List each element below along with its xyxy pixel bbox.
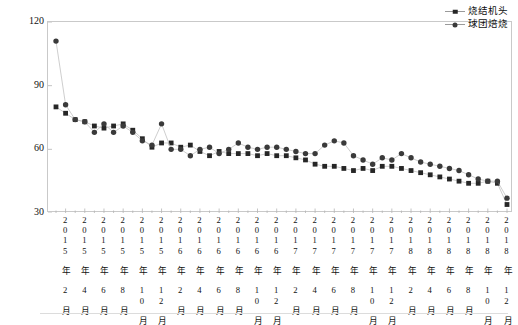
x-tick-label: 2017 年 10 月 bbox=[367, 215, 376, 325]
data-point-circle bbox=[380, 155, 385, 160]
x-tick-label: 2016 年 2 月 bbox=[175, 215, 184, 315]
data-point-square bbox=[437, 175, 442, 180]
data-point-circle bbox=[264, 145, 269, 150]
legend-label: 烧结机头 bbox=[468, 5, 508, 18]
data-point-square bbox=[505, 202, 510, 207]
data-point-square bbox=[293, 155, 298, 160]
data-point-circle bbox=[111, 130, 116, 135]
data-point-circle bbox=[149, 142, 154, 147]
legend-line bbox=[445, 11, 465, 12]
data-point-square bbox=[409, 168, 414, 173]
data-point-square bbox=[92, 124, 97, 129]
plot-area bbox=[47, 21, 512, 212]
x-tick-label: 2018 年 2 月 bbox=[406, 215, 415, 315]
data-point-square bbox=[447, 177, 452, 182]
data-point-square bbox=[389, 164, 394, 169]
data-point-circle bbox=[197, 147, 202, 152]
data-point-circle bbox=[466, 172, 471, 177]
legend-item[interactable]: 球团焙烧 bbox=[445, 18, 508, 31]
data-point-circle bbox=[140, 138, 145, 143]
data-point-circle bbox=[130, 130, 135, 135]
data-point-circle bbox=[255, 147, 260, 152]
data-point-square bbox=[265, 151, 270, 156]
data-point-circle bbox=[216, 151, 221, 156]
x-tick-label: 2017 年 8 月 bbox=[348, 215, 357, 315]
x-tick-label: 2015 年 12 月 bbox=[156, 215, 165, 325]
data-point-circle bbox=[226, 147, 231, 152]
data-point-circle bbox=[303, 151, 308, 156]
data-point-circle bbox=[351, 153, 356, 158]
data-point-square bbox=[399, 166, 404, 171]
data-point-circle bbox=[370, 161, 375, 166]
data-point-square bbox=[332, 164, 337, 169]
data-point-circle bbox=[284, 147, 289, 152]
data-point-circle bbox=[504, 195, 509, 200]
data-point-square bbox=[207, 153, 212, 158]
x-tick-label: 2017 年 4 月 bbox=[310, 215, 319, 315]
data-point-circle bbox=[312, 151, 317, 156]
data-point-square bbox=[351, 168, 356, 173]
data-point-circle bbox=[389, 157, 394, 162]
x-tick-label: 2018 年 12 月 bbox=[502, 215, 511, 325]
x-tick-label: 2018 年 4 月 bbox=[425, 215, 434, 315]
data-point-square bbox=[341, 166, 346, 171]
data-point-square bbox=[236, 151, 241, 156]
legend-circle-icon bbox=[453, 22, 458, 27]
data-point-circle bbox=[495, 178, 500, 183]
x-tick-label: 2016 年 8 月 bbox=[233, 215, 242, 315]
y-axis-title: SO₂排放浓度/（mg/m³） bbox=[0, 0, 8, 34]
data-point-circle bbox=[447, 166, 452, 171]
plot-svg bbox=[48, 22, 513, 213]
data-point-square bbox=[111, 124, 116, 129]
footer-divider bbox=[40, 313, 508, 314]
data-point-circle bbox=[332, 138, 337, 143]
data-point-square bbox=[255, 153, 260, 158]
legend-label: 球团焙烧 bbox=[468, 18, 508, 31]
data-point-circle bbox=[236, 140, 241, 145]
x-tick-label: 2017 年 6 月 bbox=[329, 215, 338, 315]
data-point-circle bbox=[82, 119, 87, 124]
data-point-square bbox=[284, 153, 289, 158]
series-sintering bbox=[54, 104, 510, 206]
data-point-circle bbox=[159, 121, 164, 126]
x-tick-label: 2016 年 4 月 bbox=[194, 215, 203, 315]
data-point-circle bbox=[72, 117, 77, 122]
y-axis-ticks: 120906030 bbox=[10, 0, 44, 232]
y-tick-label: 90 bbox=[14, 80, 44, 90]
data-point-square bbox=[380, 164, 385, 169]
data-point-circle bbox=[207, 145, 212, 150]
x-tick-label: 2015 年 6 月 bbox=[98, 215, 107, 315]
data-point-square bbox=[322, 164, 327, 169]
data-point-circle bbox=[53, 38, 58, 43]
data-point-circle bbox=[168, 147, 173, 152]
data-point-square bbox=[246, 151, 251, 156]
x-tick-label: 2015 年 4 月 bbox=[79, 215, 88, 315]
x-tick-label: 2017 年 2 月 bbox=[290, 215, 299, 315]
data-point-square bbox=[188, 143, 193, 148]
legend-square-icon bbox=[453, 9, 458, 14]
data-point-circle bbox=[341, 140, 346, 145]
x-tick-label: 2018 年 8 月 bbox=[463, 215, 472, 315]
data-point-square bbox=[159, 141, 164, 146]
data-point-circle bbox=[456, 168, 461, 173]
data-point-square bbox=[466, 181, 471, 186]
chart-legend: 烧结机头球团焙烧 bbox=[445, 5, 508, 31]
data-point-circle bbox=[437, 164, 442, 169]
data-point-circle bbox=[360, 157, 365, 162]
data-point-square bbox=[361, 166, 366, 171]
data-point-square bbox=[313, 162, 318, 167]
data-point-circle bbox=[92, 130, 97, 135]
x-tick-label: 2018 年 10 月 bbox=[482, 215, 491, 325]
data-point-circle bbox=[428, 161, 433, 166]
data-point-circle bbox=[418, 159, 423, 164]
data-point-circle bbox=[293, 149, 298, 154]
data-point-circle bbox=[120, 123, 125, 128]
legend-item[interactable]: 烧结机头 bbox=[445, 5, 508, 18]
x-tick-label: 2016 年 10 月 bbox=[252, 215, 261, 325]
data-point-circle bbox=[274, 145, 279, 150]
data-point-circle bbox=[178, 147, 183, 152]
data-point-square bbox=[54, 104, 59, 109]
x-axis-labels: 2015 年 2 月2015 年 4 月2015 年 6 月2015 年 8 月… bbox=[47, 215, 512, 315]
data-point-circle bbox=[399, 151, 404, 156]
